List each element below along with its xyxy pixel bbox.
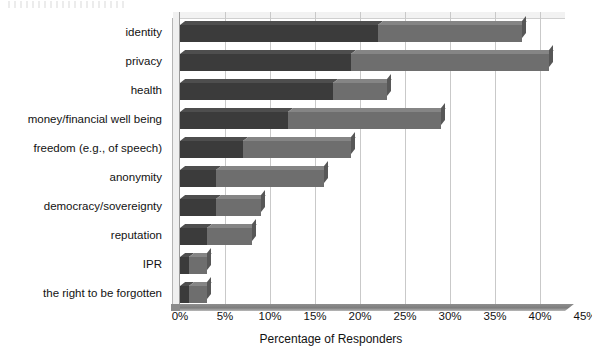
category-label: democracy/sovereignty (0, 200, 162, 212)
category-label: freedom (e.g., of speech) (0, 142, 162, 154)
bar-segment-1st (180, 83, 333, 100)
bar-chart: identity privacy health money/financial … (0, 0, 592, 356)
x-tick-label: 15% (295, 310, 335, 323)
category-label: money/financial well being (0, 113, 162, 125)
bar-segment-2nd (333, 83, 387, 100)
x-tick-label: 5% (205, 310, 245, 323)
x-tick-label: 20% (340, 310, 380, 323)
category-label: anonymity (0, 171, 162, 183)
bar-segment-1st (180, 141, 243, 158)
x-tick-label: 25% (385, 310, 425, 323)
x-axis-title: Percentage of Responders (190, 332, 403, 346)
category-axis-labels: identity privacy health money/financial … (0, 20, 168, 298)
x-tick-label: 30% (430, 310, 470, 323)
bar-segment-2nd (351, 54, 549, 71)
plot-back-wall-top (173, 12, 565, 19)
bar-segment-1st (180, 286, 189, 303)
bar-segment-2nd (189, 257, 207, 274)
bar-segment-1st (180, 257, 189, 274)
x-tick-label: 40% (520, 310, 560, 323)
category-label: reputation (0, 229, 162, 241)
bar-segment-1st (180, 199, 216, 216)
bar-segment-1st (180, 25, 378, 42)
bar-segment-1st (180, 228, 207, 245)
bar-segment-2nd (243, 141, 351, 158)
bar-segment-1st (180, 170, 216, 187)
bar-segment-2nd (216, 199, 261, 216)
bar-segment-2nd (189, 286, 207, 303)
x-tick-label: 10% (250, 310, 290, 323)
bar-segment-1st (180, 54, 351, 71)
x-axis-tick-labels: 0% 5% 10% 15% 20% 25% 30% 35% 40% 45% (0, 310, 592, 324)
category-label: IPR (0, 258, 162, 270)
category-label: the right to be forgotten (0, 287, 162, 299)
image-edge-artifact (8, 1, 128, 8)
bar-segment-1st (180, 112, 288, 129)
x-tick-label: 45% (565, 310, 592, 323)
category-label: identity (0, 26, 162, 38)
y-axis-front-line (172, 18, 173, 310)
x-tick-label: 0% (160, 310, 200, 323)
bar-segment-2nd (378, 25, 522, 42)
bar-segment-2nd (207, 228, 252, 245)
bar-segment-2nd (288, 112, 441, 129)
bar-segment-2nd (216, 170, 324, 187)
x-tick-label: 35% (475, 310, 515, 323)
x-axis-title-wrap: Percentage of Responders (0, 332, 592, 346)
plot-area: 2nd 1st (180, 18, 565, 304)
category-label: health (0, 84, 162, 96)
category-label: privacy (0, 55, 162, 67)
